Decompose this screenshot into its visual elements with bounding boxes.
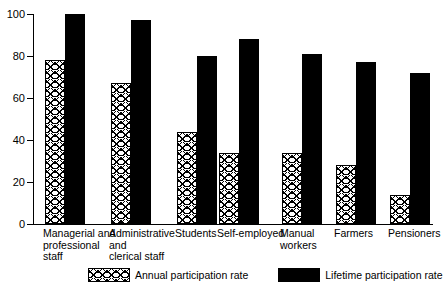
bar-lifetime-0: [65, 14, 85, 224]
hatch-swatch-icon: [88, 268, 130, 282]
bar-annual-3: [219, 153, 239, 224]
chart-legend: Annual participation rate Lifetime parti…: [88, 268, 443, 282]
y-axis-label-40: 40: [0, 135, 25, 146]
plot-area: [33, 14, 433, 224]
x-axis-label-4: Manual workers: [280, 228, 317, 251]
bar-lifetime-5: [356, 62, 376, 224]
x-axis-label-1: Administrative and clerical staff: [109, 228, 175, 263]
y-axis-label-0: 0: [0, 219, 25, 230]
solid-swatch-icon: [278, 268, 320, 282]
x-axis-label-2: Students: [175, 228, 216, 240]
bar-annual-1: [111, 83, 131, 224]
bar-annual-6: [390, 195, 410, 224]
bar-lifetime-3: [239, 39, 259, 224]
x-axis-label-3: Self-employed: [217, 228, 284, 240]
bar-lifetime-6: [410, 73, 430, 224]
y-axis-label-60: 60: [0, 93, 25, 104]
legend-item-annual: Annual participation rate: [88, 268, 248, 282]
bar-annual-5: [336, 165, 356, 224]
bar-annual-0: [45, 60, 65, 224]
bar-lifetime-2: [197, 56, 217, 224]
y-axis-label-20: 20: [0, 177, 25, 188]
legend-item-lifetime: Lifetime participation rate: [278, 268, 442, 282]
bar-lifetime-4: [302, 54, 322, 224]
x-axis-line: [33, 224, 433, 225]
legend-label-lifetime: Lifetime participation rate: [325, 269, 442, 281]
x-axis-label-6: Pensioners: [388, 228, 441, 240]
y-axis-label-100: 100: [0, 9, 25, 20]
legend-label-annual: Annual participation rate: [135, 269, 248, 281]
bar-annual-4: [282, 153, 302, 224]
x-axis-label-0: Managerial and professional staff: [43, 228, 115, 263]
y-axis-label-80: 80: [0, 51, 25, 62]
bar-annual-2: [177, 132, 197, 224]
x-axis-label-5: Farmers: [334, 228, 373, 240]
bar-lifetime-1: [131, 20, 151, 224]
